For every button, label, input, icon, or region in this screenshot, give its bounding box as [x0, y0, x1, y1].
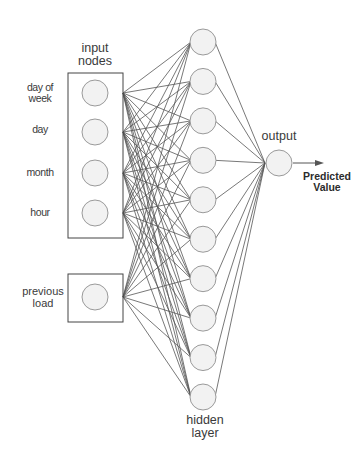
connection-line — [215, 160, 265, 163]
connection-line — [123, 132, 191, 160]
input-node — [82, 160, 108, 186]
connection-line — [123, 42, 191, 173]
connection-line — [215, 163, 265, 358]
input-node — [82, 80, 108, 106]
hidden-node — [190, 384, 216, 410]
label-day: day — [32, 124, 48, 135]
network-diagram — [0, 0, 364, 468]
input-node — [82, 284, 108, 310]
hidden-node — [190, 68, 216, 94]
input-node — [82, 200, 108, 226]
input-node-group — [82, 80, 108, 310]
hidden-node — [190, 108, 216, 134]
hidden-node — [190, 266, 216, 292]
connection-line — [215, 121, 265, 163]
label-line: hour — [30, 207, 49, 218]
connection-line — [215, 163, 265, 318]
connection-line — [215, 163, 265, 239]
label-line: month — [26, 167, 53, 178]
label-line: day — [32, 124, 48, 135]
input-hidden-connections — [123, 42, 191, 397]
hidden-output-connections — [215, 42, 265, 397]
hidden-node — [190, 187, 216, 213]
connection-line — [215, 163, 265, 200]
label-line: previous — [22, 286, 64, 298]
connection-line — [123, 297, 191, 397]
output-label: output — [262, 130, 297, 143]
hidden-node — [190, 29, 216, 55]
connection-line — [215, 81, 265, 163]
connection-line — [123, 42, 191, 297]
label-hour: hour — [30, 207, 49, 218]
hidden-layer-header: hidden layer — [186, 414, 224, 440]
label-month: month — [26, 167, 53, 178]
connection-line — [123, 42, 191, 132]
hidden-node — [190, 345, 216, 371]
connection-line — [123, 213, 191, 397]
predicted-value-label: Predicted Value — [303, 171, 351, 193]
label-previous-load: previous load — [22, 286, 64, 309]
connection-line — [215, 42, 265, 163]
input-nodes-header: input nodes — [78, 42, 112, 68]
input-node — [82, 119, 108, 145]
arrow-icon — [293, 160, 324, 166]
hidden-node-group — [190, 29, 216, 410]
hidden-node — [190, 147, 216, 173]
connection-line — [215, 163, 265, 397]
hidden-node — [190, 305, 216, 331]
output-node — [266, 150, 292, 176]
label-line: load — [22, 298, 64, 310]
hidden-node — [190, 226, 216, 252]
input-header-line2: nodes — [78, 55, 112, 68]
label-line: Value — [303, 182, 351, 193]
label-line: week — [27, 93, 53, 104]
output-header: output — [262, 130, 297, 143]
hidden-header-line2: layer — [186, 427, 224, 440]
label-day-of-week: day of week — [27, 82, 53, 104]
connection-line — [123, 297, 191, 318]
